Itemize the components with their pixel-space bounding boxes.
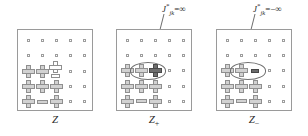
empty-site-dot-icon	[182, 39, 185, 42]
empty-site-dot-icon	[254, 39, 257, 42]
lattice-cell	[220, 33, 234, 48]
empty-site-dot-icon	[182, 69, 185, 72]
lattice-cell	[49, 33, 63, 48]
lattice-cell	[49, 79, 63, 94]
lattice-cell	[262, 79, 276, 94]
lattice-cell	[35, 48, 49, 63]
empty-site-dot-icon	[268, 54, 271, 57]
panel-label-subscript: −	[255, 119, 260, 128]
empty-site-dot-icon	[41, 54, 44, 57]
lattice-cell	[276, 48, 290, 63]
spin-up-cross-icon	[23, 81, 34, 92]
lattice-cell	[120, 94, 134, 109]
lattice-cell	[120, 79, 134, 94]
lattice-cell	[262, 94, 276, 109]
lattice-cell	[276, 94, 290, 109]
lattice-cell	[120, 48, 134, 63]
empty-site-dot-icon	[140, 54, 143, 57]
empty-site-dot-icon	[254, 54, 257, 57]
empty-site-dot-icon	[282, 54, 285, 57]
empty-site-dot-icon	[126, 39, 129, 42]
lattice-cell	[120, 63, 134, 78]
lattice-cell	[220, 48, 234, 63]
spin-up-cross-icon	[23, 66, 34, 77]
lattice-cell	[63, 94, 77, 109]
lattice-cell	[35, 33, 49, 48]
lattice-cell	[162, 79, 176, 94]
empty-site-dot-icon	[154, 54, 157, 57]
empty-site-dot-icon	[83, 85, 86, 88]
lattice-cell	[120, 33, 134, 48]
empty-site-dot-icon	[168, 69, 171, 72]
empty-site-dot-icon	[83, 54, 86, 57]
empty-site-dot-icon	[55, 39, 58, 42]
empty-site-dot-icon	[83, 39, 86, 42]
spin-up-cross-icon	[51, 96, 62, 107]
spin-up-cross-icon	[150, 81, 161, 92]
lattice-cell	[220, 94, 234, 109]
empty-site-dot-icon	[268, 85, 271, 88]
empty-site-dot-icon	[182, 54, 185, 57]
spin-up-cross-icon	[222, 81, 233, 92]
lattice-cell	[234, 79, 248, 94]
empty-site-dot-icon	[226, 39, 229, 42]
lattice-cell	[148, 63, 162, 78]
empty-site-dot-icon	[69, 70, 72, 73]
lattice-cell	[162, 63, 176, 78]
empty-site-dot-icon	[282, 69, 285, 72]
lattice-cell	[148, 33, 162, 48]
lattice-cell	[134, 48, 148, 63]
spin-up-cross-icon	[250, 96, 261, 107]
empty-site-dot-icon	[226, 54, 229, 57]
annotation-value: ∞	[179, 4, 185, 14]
spin-up-cross-icon	[23, 96, 34, 107]
lattice-cell	[148, 48, 162, 63]
empty-site-dot-icon	[69, 54, 72, 57]
lattice-cell	[21, 79, 35, 94]
spin-up-cross-icon	[150, 96, 161, 107]
lattice-cell	[262, 48, 276, 63]
spin-up-cross-icon	[37, 66, 48, 77]
lattice-cell	[276, 63, 290, 78]
lattice-cell	[162, 33, 176, 48]
lattice-cell	[248, 48, 262, 63]
empty-site-dot-icon	[83, 100, 86, 103]
empty-site-dot-icon	[41, 39, 44, 42]
lattice-cell	[134, 79, 148, 94]
empty-site-dot-icon	[240, 54, 243, 57]
lattice-grid	[21, 33, 91, 109]
empty-site-dot-icon	[55, 54, 58, 57]
lattice-cell	[248, 79, 262, 94]
empty-site-dot-icon	[282, 85, 285, 88]
empty-site-dot-icon	[240, 39, 243, 42]
empty-site-dot-icon	[154, 39, 157, 42]
spin-up-cross-icon	[122, 81, 133, 92]
annotation-value: −∞	[270, 4, 282, 14]
spin-up-cross-icon	[122, 65, 133, 76]
lattice-cell	[63, 63, 77, 79]
spin-up-cross-icon	[51, 81, 62, 92]
lattice-cell	[248, 33, 262, 48]
panel-label-z: Z	[17, 113, 93, 128]
lattice-cell	[248, 63, 262, 78]
lattice-panel-z-plus	[116, 29, 192, 111]
cross-over-bar-icon	[50, 63, 62, 79]
empty-site-dot-icon	[182, 85, 185, 88]
empty-site-dot-icon	[168, 85, 171, 88]
empty-site-dot-icon	[268, 39, 271, 42]
lattice-cell	[148, 94, 162, 109]
empty-site-dot-icon	[27, 54, 30, 57]
empty-site-dot-icon	[182, 100, 185, 103]
spin-down-bar-icon	[37, 100, 48, 104]
lattice-cell	[162, 94, 176, 109]
empty-site-dot-icon	[168, 54, 171, 57]
lattice-cell	[262, 63, 276, 78]
lattice-cell	[49, 63, 63, 79]
lattice-cell	[176, 94, 190, 109]
empty-site-dot-icon	[27, 39, 30, 42]
lattice-cell	[248, 94, 262, 109]
lattice-cell	[35, 94, 49, 109]
spin-up-cross-icon	[236, 65, 247, 76]
empty-site-dot-icon	[69, 39, 72, 42]
lattice-cell	[176, 33, 190, 48]
